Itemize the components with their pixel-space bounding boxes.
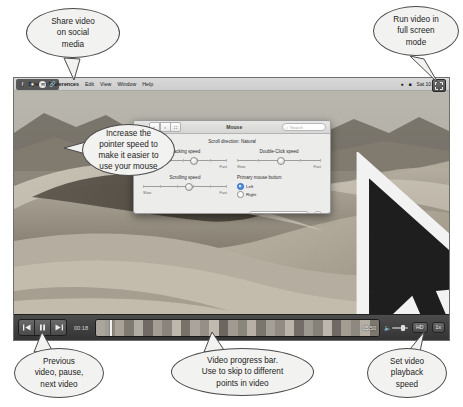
callout-fullscreen-text: Run video in full screen mode [393,14,439,48]
menu-item-help[interactable]: Help [142,81,153,87]
callout-line: video, pause, [35,367,84,378]
current-time: 00:18 [71,325,91,331]
callout-progress-text: Video progress bar. Use to skip to diffe… [202,355,283,389]
scrolling-speed-slider[interactable] [143,183,227,190]
scrolling-speed-field: Scrolling speed Slow [143,175,227,195]
filmstrip-thumbnails [96,320,379,336]
callout-line: playback [390,367,424,378]
fullscreen-callout-tail [408,54,444,86]
callout-pointer-speed: Increase the pointer speed to make it ea… [82,124,175,176]
callout-line: next video [35,379,84,390]
search-icon: ⌕ [286,125,288,130]
share-overlay[interactable]: f ● ✉ 🔗 [16,79,59,90]
callout-share-text: Share video on social media [51,16,95,50]
screenshot-stage:  System Preferences Edit View Window He… [0,0,463,407]
search-placeholder: Search [290,125,303,130]
twitter-icon[interactable]: ● [29,81,36,88]
callout-pointer-text: Increase the pointer speed to make it ea… [98,128,158,173]
video-progress-bar[interactable]: 05:50 [95,319,380,337]
callout-fullscreen: Run video in full screen mode [373,6,459,56]
callout-line: mode [393,37,439,48]
dialog-title: Mouse [187,124,283,130]
playback-speed-button[interactable]: 1x [432,322,445,333]
callout-speed-text: Set video playback speed [390,356,424,390]
video-player-window:  System Preferences Edit View Window He… [14,78,449,340]
wifi-icon[interactable]: ● [401,81,404,87]
total-time: 05:50 [363,325,377,331]
video-content-desert-wallpaper: ▦ ‹ › ∷ Mouse ⌕ Search Scroll direction:… [14,91,449,340]
scrolling-speed-endpoints: Slow Fast [143,191,227,195]
volume-icon[interactable]: 🔈 [384,324,391,331]
callout-line: use your mouse [98,161,158,172]
playhead-handle[interactable] [110,319,112,337]
callout-line: points in video [202,378,283,389]
volume-slider[interactable] [392,327,408,329]
callout-line: make it easier to [98,150,158,161]
link-icon[interactable]: 🔗 [49,81,56,88]
callout-line: Share video [51,16,95,27]
scrolling-speed-label: Scrolling speed [143,175,227,180]
callout-line: pointer speed to [98,139,158,150]
callout-line: full screen [393,25,439,36]
previous-icon [23,324,31,331]
show-all-button[interactable]: ∷ [171,122,181,132]
callout-transport-text: Previous video, pause, next video [35,356,84,390]
player-control-bar: 00:18 05:50 🔈 [14,314,449,340]
callout-line: Previous [35,356,84,367]
callout-line: on social [51,27,95,38]
callout-line: Run video in [393,14,439,25]
share-callout-tail [60,56,90,82]
callout-line: Set video [390,356,424,367]
callout-line: Video progress bar. [202,355,283,366]
callout-line: Increase the [98,128,158,139]
callout-transport-controls: Previous video, pause, next video [14,348,104,398]
slider-knob[interactable] [190,157,198,165]
callout-line: media [51,39,95,50]
callout-line: speed [390,379,424,390]
menu-item-view[interactable]: View [100,81,111,87]
menu-item-window[interactable]: Window [117,81,136,87]
slider-knob[interactable] [185,183,193,191]
facebook-icon[interactable]: f [19,81,26,88]
scrolling-speed-min: Slow [143,191,151,195]
callout-progress-bar: Video progress bar. Use to skip to diffe… [171,348,314,396]
mouse-cursor-icon [220,152,449,340]
callout-share-video: Share video on social media [26,8,120,58]
dialog-search-field[interactable]: ⌕ Search [282,123,326,131]
progress-played-region [96,320,111,336]
callout-playback-speed: Set video playback speed [367,348,447,398]
callout-line: Use to skip to different [202,366,283,377]
email-icon[interactable]: ✉ [39,81,46,88]
